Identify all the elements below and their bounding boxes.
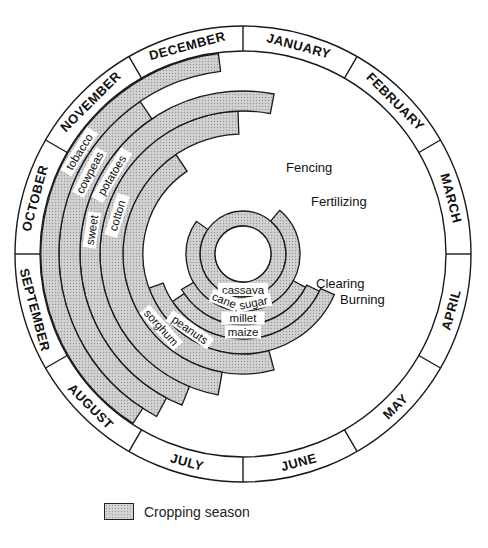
activity-label-clearing: Clearing <box>316 276 364 291</box>
inner-circle <box>215 226 271 282</box>
activity-label-fertilizing: Fertilizing <box>311 194 367 209</box>
crop-label-maize: maize <box>228 326 259 338</box>
activity-label-burning: Burning <box>340 292 385 307</box>
crop-label-cassava: cassava <box>222 284 265 296</box>
crop-calendar-diagram: JANUARYFEBRUARYMARCHAPRILMAYJUNEJULYAUGU… <box>0 0 488 548</box>
activity-label-fencing: Fencing <box>286 160 332 175</box>
cropping-season-swatch <box>104 503 134 520</box>
crop-label-millet: millet <box>230 312 258 324</box>
legend: Cropping season <box>104 503 250 520</box>
legend-label: Cropping season <box>144 504 250 520</box>
